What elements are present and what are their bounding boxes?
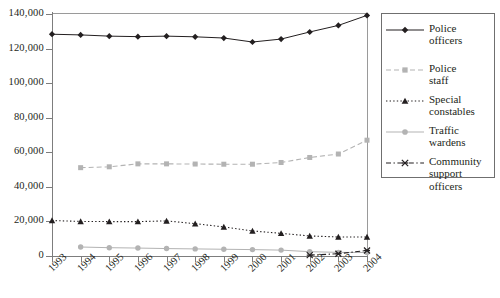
data-point (192, 246, 197, 251)
data-point (135, 245, 140, 250)
data-point (107, 164, 112, 169)
legend-label-line: Special (429, 93, 475, 105)
data-point (78, 165, 83, 170)
chart-legend: PoliceofficersPolicestaffSpecialconstabl… (381, 13, 495, 178)
data-point (78, 32, 84, 38)
data-point (278, 247, 283, 252)
series-special-constables (49, 217, 370, 239)
data-point (49, 217, 55, 223)
legend-label: Policestaff (428, 62, 457, 87)
legend-label-line: Police (429, 62, 457, 74)
series-traffic-wardens (78, 244, 370, 255)
data-point (107, 245, 112, 250)
data-point (250, 247, 255, 252)
data-point (249, 39, 255, 45)
series-police-officers (49, 12, 370, 45)
legend-label-line: Traffic (429, 124, 466, 136)
legend-label: Communitysupportofficers (428, 155, 482, 192)
data-point (49, 31, 55, 37)
legend-marker-triangle-icon (382, 94, 428, 108)
data-point (164, 161, 169, 166)
legend-item-special-constables[interactable]: Specialconstables (382, 93, 494, 118)
series-police-staff (78, 138, 369, 170)
legend-item-police-staff[interactable]: Policestaff (382, 62, 494, 87)
data-point (307, 29, 313, 35)
data-point (279, 160, 284, 165)
legend-label-line: staff (429, 74, 457, 86)
data-point (221, 162, 226, 167)
legend-label-line: support (429, 167, 482, 179)
data-point (164, 246, 169, 251)
legend-label-line: Community (429, 155, 482, 167)
legend-label: Trafficwardens (428, 124, 466, 149)
data-point (193, 162, 198, 167)
data-point (135, 34, 141, 40)
data-point (192, 34, 198, 40)
data-point (250, 162, 255, 167)
data-point (307, 155, 312, 160)
legend-label-line: Police (429, 22, 462, 34)
data-point (163, 33, 169, 39)
data-point (278, 36, 284, 42)
legend-marker-x-icon (382, 156, 428, 170)
data-point (335, 22, 341, 28)
legend-label-line: officers (429, 180, 482, 192)
data-point (135, 161, 140, 166)
legend-marker-square-icon (382, 63, 428, 77)
line-chart: 140,000120,000100,00080,00060,00040,0002… (0, 0, 500, 298)
legend-item-traffic-wardens[interactable]: Trafficwardens (382, 124, 494, 149)
legend-label-line: wardens (429, 136, 466, 148)
legend-label-line: constables (429, 105, 475, 117)
legend-item-police-officers[interactable]: Policeofficers (382, 22, 494, 47)
legend-label-line: officers (429, 34, 462, 46)
legend-label: Specialconstables (428, 93, 475, 118)
data-point (221, 247, 226, 252)
data-point (78, 244, 83, 249)
data-point (364, 12, 370, 18)
legend-marker-circle-icon (382, 125, 428, 139)
data-point (336, 152, 341, 157)
data-point (365, 138, 370, 143)
legend-label: Policeofficers (428, 22, 462, 47)
legend-marker-diamond-icon (382, 23, 428, 37)
data-point (221, 35, 227, 41)
legend-item-community-support-officers[interactable]: Communitysupportofficers (382, 155, 494, 192)
data-point (106, 33, 112, 39)
